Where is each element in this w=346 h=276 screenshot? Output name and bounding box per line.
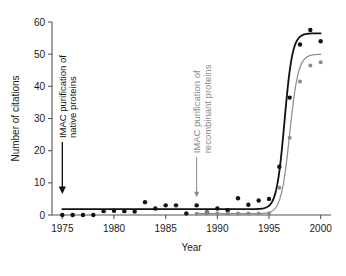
y-tick-label: 50 xyxy=(34,49,46,60)
fit-curve-recombinant xyxy=(197,54,321,213)
data-point xyxy=(319,60,323,64)
data-point xyxy=(184,211,188,215)
annotation-label-line1: IMAC purification of xyxy=(57,55,68,138)
data-point xyxy=(256,198,260,202)
data-point xyxy=(215,211,219,215)
annotation-arrow-head xyxy=(59,187,66,195)
data-point xyxy=(91,213,95,217)
data-point xyxy=(194,203,198,207)
data-point xyxy=(298,80,302,84)
points-recombinant xyxy=(195,60,323,216)
data-point xyxy=(298,42,302,46)
data-point xyxy=(153,206,157,210)
x-tick-label: 1980 xyxy=(103,223,126,234)
data-point xyxy=(215,206,219,210)
data-point xyxy=(308,63,312,67)
y-tick-label: 30 xyxy=(34,113,46,124)
data-point xyxy=(277,165,281,169)
data-point xyxy=(288,136,292,140)
annotation-arrow-head xyxy=(194,192,199,198)
data-point xyxy=(236,211,240,215)
x-tick-label: 1975 xyxy=(51,223,74,234)
data-point xyxy=(205,211,209,215)
data-point xyxy=(112,209,116,213)
annotation-label-line2: recombinant proteins xyxy=(202,64,213,153)
data-point xyxy=(267,211,271,215)
y-tick-label: 20 xyxy=(34,145,46,156)
annot-native: IMAC purification ofnative proteins xyxy=(57,55,79,194)
annot-recombinant: IMAC purification ofrecombinant proteins xyxy=(191,64,213,197)
data-point xyxy=(101,209,105,213)
data-point xyxy=(287,95,291,99)
y-tick-label: 60 xyxy=(34,17,46,28)
y-axis-title: Number of citations xyxy=(10,75,21,161)
data-point xyxy=(277,186,281,190)
x-axis-title: Year xyxy=(181,242,202,253)
data-point xyxy=(122,209,126,213)
y-tick-label: 10 xyxy=(34,177,46,188)
data-point xyxy=(246,203,250,207)
x-tick-label: 1990 xyxy=(206,223,229,234)
x-tick-label: 1995 xyxy=(258,223,281,234)
annotation-label-line1: IMAC purification of xyxy=(191,70,202,153)
data-point xyxy=(174,203,178,207)
data-point xyxy=(236,196,240,200)
data-point xyxy=(60,213,64,217)
data-point xyxy=(308,28,312,32)
data-point xyxy=(318,39,322,43)
y-tick-label: 0 xyxy=(39,210,45,221)
data-point xyxy=(257,211,261,215)
data-point xyxy=(195,212,199,216)
x-tick-label: 2000 xyxy=(310,223,333,234)
citation-chart-figure: 0102030405060197519801985199019952000Yea… xyxy=(0,0,346,276)
data-point xyxy=(246,211,250,215)
data-point xyxy=(226,211,230,215)
data-point xyxy=(132,209,136,213)
chart-canvas: 0102030405060197519801985199019952000Yea… xyxy=(0,0,346,276)
data-point xyxy=(81,213,85,217)
y-tick-label: 40 xyxy=(34,81,46,92)
data-point xyxy=(70,213,74,217)
data-point xyxy=(267,197,271,201)
data-point xyxy=(143,200,147,204)
x-tick-label: 1985 xyxy=(155,223,178,234)
annotation-label-line2: native proteins xyxy=(67,76,78,138)
data-point xyxy=(163,203,167,207)
